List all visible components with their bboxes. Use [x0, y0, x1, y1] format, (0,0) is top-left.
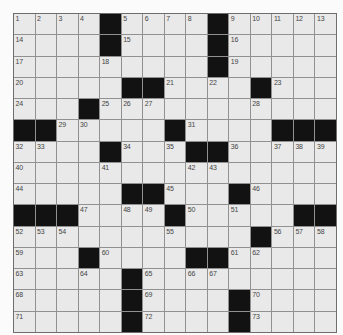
- crossword-cell-r3c4[interactable]: [79, 57, 100, 77]
- crossword-cell-r13c8[interactable]: [165, 269, 186, 289]
- crossword-cell-r8c3[interactable]: [57, 163, 78, 183]
- crossword-cell-r9c12[interactable]: 46: [251, 184, 272, 204]
- crossword-cell-r4c11[interactable]: [229, 78, 250, 98]
- crossword-cell-r10c7[interactable]: 49: [143, 205, 164, 225]
- crossword-cell-r8c14[interactable]: [294, 163, 315, 183]
- crossword-cell-r1c2[interactable]: 2: [36, 14, 57, 34]
- crossword-cell-r2c13[interactable]: [272, 35, 293, 55]
- crossword-cell-r3c8[interactable]: [165, 57, 186, 77]
- crossword-cell-r12c14[interactable]: [294, 248, 315, 268]
- crossword-cell-r8c15[interactable]: [315, 163, 336, 183]
- crossword-cell-r3c13[interactable]: [272, 57, 293, 77]
- crossword-cell-r5c12[interactable]: 28: [251, 99, 272, 119]
- crossword-cell-r9c4[interactable]: [79, 184, 100, 204]
- crossword-cell-r12c6[interactable]: [122, 248, 143, 268]
- crossword-cell-r15c8[interactable]: [165, 312, 186, 332]
- crossword-cell-r13c5[interactable]: [100, 269, 121, 289]
- crossword-cell-r14c5[interactable]: [100, 290, 121, 310]
- crossword-cell-r8c12[interactable]: [251, 163, 272, 183]
- crossword-cell-r1c1[interactable]: 1: [14, 14, 35, 34]
- crossword-cell-r5c9[interactable]: [186, 99, 207, 119]
- crossword-cell-r5c5[interactable]: 25: [100, 99, 121, 119]
- crossword-cell-r4c4[interactable]: [79, 78, 100, 98]
- crossword-cell-r8c4[interactable]: [79, 163, 100, 183]
- crossword-cell-r4c1[interactable]: 20: [14, 78, 35, 98]
- crossword-cell-r11c13[interactable]: 56: [272, 227, 293, 247]
- crossword-cell-r12c8[interactable]: [165, 248, 186, 268]
- crossword-cell-r13c11[interactable]: [229, 269, 250, 289]
- crossword-cell-r14c3[interactable]: [57, 290, 78, 310]
- crossword-cell-r11c9[interactable]: [186, 227, 207, 247]
- crossword-cell-r11c10[interactable]: [208, 227, 229, 247]
- crossword-cell-r8c8[interactable]: [165, 163, 186, 183]
- crossword-cell-r2c12[interactable]: [251, 35, 272, 55]
- crossword-cell-r7c4[interactable]: [79, 142, 100, 162]
- crossword-cell-r10c11[interactable]: 51: [229, 205, 250, 225]
- crossword-cell-r11c2[interactable]: 53: [36, 227, 57, 247]
- crossword-cell-r14c4[interactable]: [79, 290, 100, 310]
- crossword-cell-r1c13[interactable]: 11: [272, 14, 293, 34]
- crossword-cell-r2c9[interactable]: [186, 35, 207, 55]
- crossword-cell-r2c3[interactable]: [57, 35, 78, 55]
- crossword-cell-r13c2[interactable]: [36, 269, 57, 289]
- crossword-cell-r12c5[interactable]: 60: [100, 248, 121, 268]
- crossword-cell-r1c4[interactable]: 4: [79, 14, 100, 34]
- crossword-cell-r3c5[interactable]: 18: [100, 57, 121, 77]
- crossword-cell-r5c1[interactable]: 24: [14, 99, 35, 119]
- crossword-cell-r15c4[interactable]: [79, 312, 100, 332]
- crossword-cell-r8c5[interactable]: 41: [100, 163, 121, 183]
- crossword-cell-r9c8[interactable]: 45: [165, 184, 186, 204]
- crossword-cell-r3c3[interactable]: [57, 57, 78, 77]
- crossword-cell-r15c3[interactable]: [57, 312, 78, 332]
- crossword-cell-r2c11[interactable]: 16: [229, 35, 250, 55]
- crossword-cell-r14c1[interactable]: 68: [14, 290, 35, 310]
- crossword-cell-r7c6[interactable]: 34: [122, 142, 143, 162]
- crossword-cell-r4c13[interactable]: 23: [272, 78, 293, 98]
- crossword-cell-r13c14[interactable]: [294, 269, 315, 289]
- crossword-cell-r8c2[interactable]: [36, 163, 57, 183]
- crossword-cell-r4c8[interactable]: 21: [165, 78, 186, 98]
- crossword-cell-r10c5[interactable]: [100, 205, 121, 225]
- crossword-cell-r15c12[interactable]: 73: [251, 312, 272, 332]
- crossword-cell-r14c10[interactable]: [208, 290, 229, 310]
- crossword-cell-r3c12[interactable]: [251, 57, 272, 77]
- crossword-cell-r4c2[interactable]: [36, 78, 57, 98]
- crossword-cell-r6c10[interactable]: [208, 120, 229, 140]
- crossword-cell-r12c12[interactable]: 62: [251, 248, 272, 268]
- crossword-cell-r7c2[interactable]: 33: [36, 142, 57, 162]
- crossword-cell-r15c9[interactable]: [186, 312, 207, 332]
- crossword-cell-r4c3[interactable]: [57, 78, 78, 98]
- crossword-cell-r2c15[interactable]: [315, 35, 336, 55]
- crossword-cell-r8c11[interactable]: [229, 163, 250, 183]
- crossword-cell-r11c11[interactable]: [229, 227, 250, 247]
- crossword-cell-r11c5[interactable]: [100, 227, 121, 247]
- crossword-cell-r9c14[interactable]: [294, 184, 315, 204]
- crossword-cell-r13c15[interactable]: [315, 269, 336, 289]
- crossword-cell-r3c9[interactable]: [186, 57, 207, 77]
- crossword-cell-r5c14[interactable]: [294, 99, 315, 119]
- crossword-cell-r9c2[interactable]: [36, 184, 57, 204]
- crossword-cell-r12c15[interactable]: [315, 248, 336, 268]
- crossword-cell-r12c7[interactable]: [143, 248, 164, 268]
- crossword-cell-r4c14[interactable]: [294, 78, 315, 98]
- crossword-cell-r8c7[interactable]: [143, 163, 164, 183]
- crossword-cell-r11c3[interactable]: 54: [57, 227, 78, 247]
- crossword-cell-r11c1[interactable]: 52: [14, 227, 35, 247]
- crossword-cell-r11c14[interactable]: 57: [294, 227, 315, 247]
- crossword-cell-r15c13[interactable]: [272, 312, 293, 332]
- crossword-cell-r8c13[interactable]: [272, 163, 293, 183]
- crossword-cell-r12c2[interactable]: [36, 248, 57, 268]
- crossword-cell-r6c9[interactable]: 31: [186, 120, 207, 140]
- crossword-cell-r12c1[interactable]: 59: [14, 248, 35, 268]
- crossword-cell-r9c10[interactable]: [208, 184, 229, 204]
- crossword-cell-r6c4[interactable]: 30: [79, 120, 100, 140]
- crossword-cell-r3c15[interactable]: [315, 57, 336, 77]
- crossword-cell-r4c9[interactable]: [186, 78, 207, 98]
- crossword-cell-r10c10[interactable]: [208, 205, 229, 225]
- crossword-cell-r11c8[interactable]: 55: [165, 227, 186, 247]
- crossword-cell-r7c11[interactable]: 36: [229, 142, 250, 162]
- crossword-cell-r3c1[interactable]: 17: [14, 57, 35, 77]
- crossword-cell-r3c11[interactable]: 19: [229, 57, 250, 77]
- crossword-cell-r7c1[interactable]: 32: [14, 142, 35, 162]
- crossword-cell-r3c14[interactable]: [294, 57, 315, 77]
